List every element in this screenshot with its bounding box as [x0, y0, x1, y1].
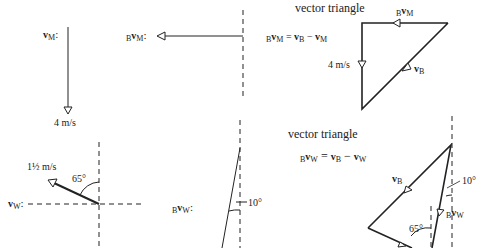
- arrowhead-down-icon: [358, 61, 366, 68]
- vM-vector: [64, 27, 72, 114]
- arrowhead-left-icon: [157, 32, 165, 40]
- BvM-vector: [157, 10, 243, 98]
- triangle-1-title: vector triangle: [295, 2, 365, 14]
- arrowhead-icon: [404, 186, 412, 193]
- triangle-1-left-label: 4 m/s: [328, 60, 350, 70]
- BvW-vector: [222, 120, 247, 248]
- triangle-1-top-label: BvM: [396, 6, 413, 18]
- BvW-label: BvW:: [172, 202, 193, 215]
- triangle-1-hyp-label: vB: [414, 64, 424, 76]
- equation-1: BvM = vB − vM: [266, 32, 327, 44]
- vW-vector: [28, 142, 145, 248]
- triangle-2-title: vector triangle: [288, 128, 358, 140]
- vM-magnitude: 4 m/s: [54, 118, 76, 128]
- arrowhead-left-icon: [393, 19, 400, 27]
- triangle-2-angle-10: 10°: [462, 176, 476, 186]
- equation-2: BvW = vB − vW: [300, 150, 366, 164]
- triangle-2-vB-label: vB: [392, 174, 402, 186]
- BvW-angle: 10°: [248, 198, 262, 208]
- triangle-2-BvW-label: BvW: [446, 208, 464, 220]
- vM-label: vM:: [43, 29, 58, 42]
- arrowhead-down-icon: [64, 107, 72, 114]
- vW-magnitude: 1½ m/s: [27, 162, 56, 172]
- vW-label: vW:: [8, 198, 24, 211]
- vW-angle: 65°: [72, 174, 86, 184]
- BvM-label: BvM:: [126, 30, 147, 43]
- triangle-2-angle-65: 65°: [409, 224, 423, 234]
- vector-triangle-1: [358, 19, 448, 109]
